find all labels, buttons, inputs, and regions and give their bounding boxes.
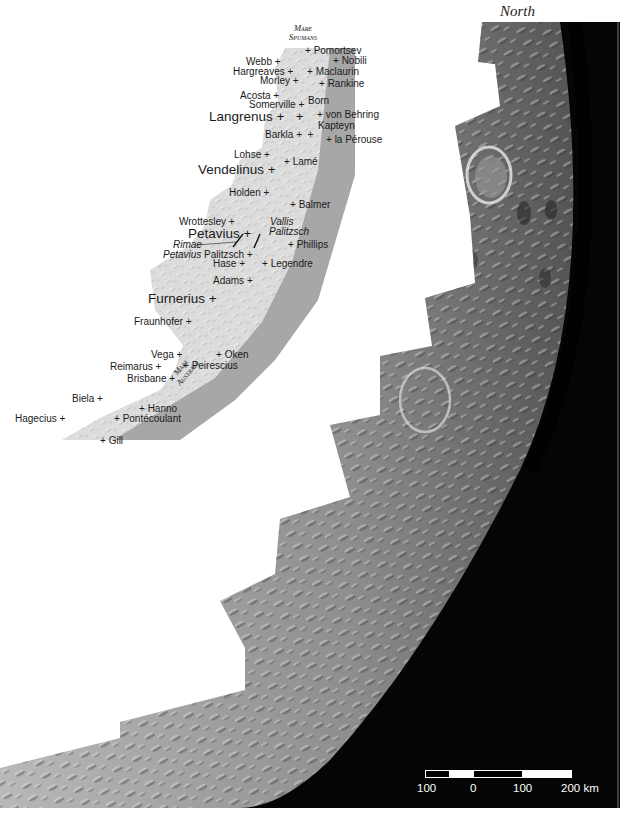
- feature-rimae-petavius-line2: Petavius: [163, 250, 201, 260]
- feature-biela: Biela +: [72, 394, 103, 404]
- scale-tick-100-right: 100: [513, 782, 532, 794]
- scale-tick-0: 0: [470, 782, 476, 794]
- feature-morley: Morley +: [260, 76, 299, 86]
- feature-vega: Vega +: [151, 350, 182, 360]
- feature-nobili: + Nobili: [333, 56, 367, 66]
- feature-maclaurin: + Maclaurin: [307, 67, 359, 77]
- feature-adams: Adams +: [213, 276, 253, 286]
- lunar-map-figure: North Mare Spumans Mare Australe + Pomor: [0, 0, 635, 828]
- feature-legendre: + Legendre: [262, 259, 313, 269]
- scale-seg-3: [473, 770, 523, 778]
- feature-vendelinus: Vendelinus +: [198, 163, 276, 177]
- feature-pontecoulant: + Pontécoulant: [114, 414, 181, 424]
- scale-seg-1: [425, 770, 450, 778]
- feature-brisbane: Brisbane +: [127, 374, 175, 384]
- scale-bar: [425, 770, 572, 780]
- feature-lame: + Lamé: [284, 157, 318, 167]
- scale-seg-4: [522, 770, 572, 778]
- feature-von-behring: + von Behring: [317, 110, 379, 120]
- feature-langrenus: Langrenus + +: [209, 110, 304, 124]
- feature-balmer: + Balmer: [290, 200, 330, 210]
- feature-oken: + Oken: [216, 350, 249, 360]
- feature-lohse: Lohse +: [234, 150, 270, 160]
- feature-phillips: + Phillips: [288, 240, 328, 250]
- scale-tick-200km: 200 km: [561, 782, 599, 794]
- feature-hagecius: Hagecius +: [15, 414, 65, 424]
- feature-kapteyn: Kapteyn: [318, 121, 355, 131]
- scale-tick-100-left: 100: [417, 782, 436, 794]
- feature-la-perouse: + la Pérouse: [326, 135, 382, 145]
- feature-reimarus: Reimarus +: [110, 362, 161, 372]
- feature-rankine: + Rankine: [319, 79, 364, 89]
- feature-barkla: Barkla + +: [265, 130, 313, 140]
- mare-spumans-label: Mare Spumans: [289, 24, 317, 42]
- scale-seg-2: [449, 770, 474, 778]
- feature-gill: + Gill: [100, 436, 123, 446]
- feature-furnerius: Furnerius +: [148, 292, 217, 306]
- feature-holden: Holden +: [229, 188, 269, 198]
- feature-fraunhofer: Fraunhofer +: [134, 317, 192, 327]
- feature-peirescius: + Peirescius: [183, 361, 238, 371]
- feature-born: Born: [308, 96, 329, 106]
- feature-vallis-palitzsch-line2: Palitzsch: [269, 227, 309, 237]
- feature-hase: Hase +: [213, 259, 245, 269]
